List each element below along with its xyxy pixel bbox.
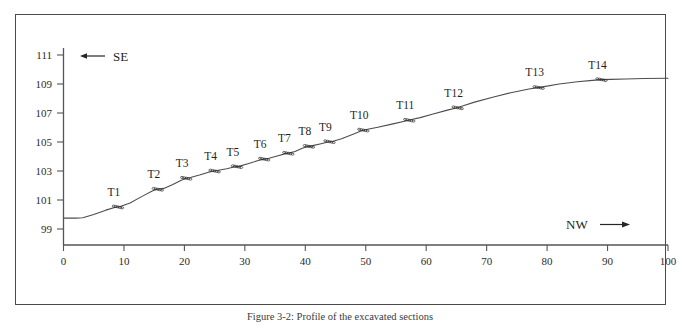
transect-label: T12: [444, 87, 463, 99]
profile-curve: [64, 78, 669, 218]
figure-caption: Figure 3-2: Profile of the excavated sec…: [0, 311, 680, 322]
x-tick-label: 90: [602, 255, 614, 267]
y-tick-label: 111: [36, 49, 52, 61]
x-tick-label: 30: [239, 255, 251, 267]
transect-label: T2: [147, 168, 160, 180]
transect-label: T14: [588, 59, 607, 71]
se-label: SE: [113, 49, 128, 64]
y-tick-label: 107: [36, 107, 53, 119]
data-marker-group: [112, 78, 607, 209]
transect-label: T10: [350, 109, 369, 121]
profile-chart: 99101103105107109111 0102030405060708090…: [0, 0, 680, 327]
y-tick-label: 103: [36, 165, 53, 177]
x-tick-label: 100: [660, 255, 677, 267]
y-ticklabel-group: 99101103105107109111: [36, 49, 53, 235]
transect-label: T4: [204, 150, 217, 162]
nw-direction-annotation: NW: [566, 217, 630, 232]
x-tick-label: 20: [179, 255, 191, 267]
transect-label: T3: [176, 157, 189, 169]
transect-label: T8: [299, 125, 312, 137]
arrow-left-head-icon: [80, 53, 87, 59]
x-tick-label: 70: [481, 255, 493, 267]
x-ticklabel-group: 0102030405060708090100: [61, 255, 677, 267]
y-tick-label: 105: [36, 136, 53, 148]
transect-label: T13: [525, 66, 544, 78]
x-tick-label: 60: [421, 255, 433, 267]
y-tick-label: 101: [36, 194, 53, 206]
transect-label: T5: [227, 146, 240, 158]
se-direction-annotation: SE: [80, 49, 128, 64]
x-tick-label: 10: [118, 255, 130, 267]
arrow-right-head-icon: [622, 222, 630, 228]
x-tick-group: [64, 245, 669, 251]
x-tick-label: 40: [300, 255, 312, 267]
x-tick-label: 50: [360, 255, 372, 267]
transect-label: T9: [319, 121, 332, 133]
transect-label: T6: [254, 138, 267, 150]
transect-label: T1: [108, 186, 121, 198]
y-tick-group: [57, 55, 64, 229]
nw-label: NW: [566, 217, 588, 232]
transect-label-group: T1T2T3T4T5T6T7T8T9T10T11T12T13T14: [108, 59, 607, 198]
y-tick-label: 99: [41, 223, 53, 235]
transect-label: T11: [396, 99, 414, 111]
x-tick-label: 0: [61, 255, 67, 267]
y-tick-label: 109: [36, 78, 53, 90]
transect-label: T7: [278, 132, 291, 144]
x-tick-label: 80: [542, 255, 554, 267]
axes: [64, 48, 669, 245]
